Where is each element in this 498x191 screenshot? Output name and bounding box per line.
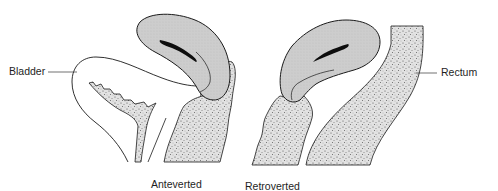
anteverted-uterus — [137, 14, 230, 100]
retroverted-caption: Retroverted — [245, 181, 300, 191]
anteverted-caption: Anteverted — [151, 179, 202, 190]
anteverted-panel — [72, 14, 235, 162]
bladder-label: Bladder — [9, 66, 45, 77]
uterus-position-diagram — [0, 0, 498, 191]
vaginal-anterior-line — [148, 118, 166, 162]
bladder-lumen — [89, 82, 156, 162]
retroverted-panel — [252, 20, 423, 165]
rectum-label: Rectum — [441, 67, 477, 78]
retroverted-cervix-vagina — [252, 96, 313, 165]
